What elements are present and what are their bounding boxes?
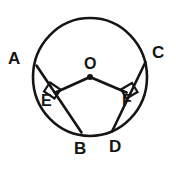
point-label-d: D	[109, 138, 121, 155]
point-label-c: C	[152, 44, 164, 61]
center-point-dot	[87, 74, 93, 80]
point-label-o: O	[84, 56, 96, 72]
point-label-b: B	[74, 140, 86, 157]
point-label-a: A	[8, 50, 20, 67]
point-label-e: E	[41, 93, 52, 109]
point-label-f: F	[122, 93, 132, 109]
geometry-diagram: A C O E F B D	[0, 0, 176, 169]
geometry-canvas	[0, 0, 176, 169]
